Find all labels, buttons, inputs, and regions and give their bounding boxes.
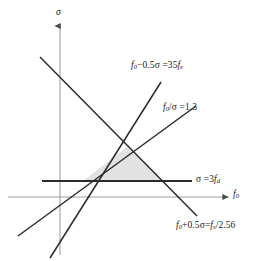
constraint-label-f0-minus-half-sigma: f0−0.5σ =35fe [131, 61, 183, 71]
constraint-label-f0-over-sigma: f0/σ =1.3 [163, 103, 197, 113]
label4-operator: +0.5σ= [182, 220, 210, 230]
constraint-label-sigma-equals-3fd: σ =3fd [196, 175, 220, 185]
sigma-axis-label: σ [56, 8, 61, 18]
feasible-region [83, 147, 163, 181]
constraint-line-f0-plus-half-sigma [40, 57, 197, 216]
sigma-axis-label-text: σ [56, 7, 61, 17]
f0-axis-label-sub: 0 [236, 192, 239, 199]
label3-operator: σ =3 [196, 174, 214, 184]
constraint-label-f0-plus-half-sigma: f0+0.5σ=fs/2.56 [176, 221, 235, 231]
label2-operator: /σ =1.3 [169, 102, 197, 112]
label3-rhs-sub: d [217, 177, 220, 184]
label1-rhs-sub: e [180, 63, 183, 70]
f0-axis-label: f0 [233, 190, 239, 200]
constraint-diagram-figure: σ f0 f0−0.5σ =35fe f0/σ =1.3 σ =3fd f0+0… [0, 0, 266, 261]
label4-tail: /2.56 [216, 220, 236, 230]
label1-operator: −0.5σ =35 [137, 60, 178, 70]
